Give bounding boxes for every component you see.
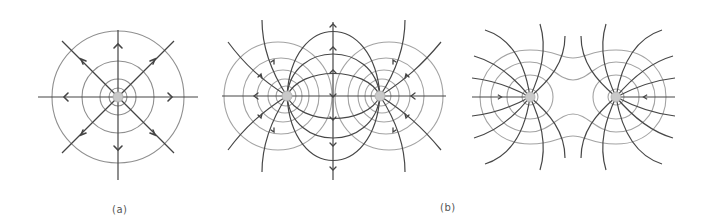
- charge-left: [525, 92, 535, 102]
- charge-right: [611, 92, 621, 102]
- panel-b-dipole: [222, 20, 446, 180]
- panel-label-b: (b): [440, 202, 456, 213]
- panel-label-a: (a): [112, 204, 127, 215]
- field-lines: [38, 30, 198, 180]
- field-diagrams: [0, 0, 709, 220]
- panel-c-like-charges: [472, 24, 675, 170]
- field-lines: [222, 20, 446, 180]
- panel-a-single-charge: [38, 30, 198, 180]
- negative-charge: [375, 91, 385, 101]
- positive-charge: [282, 91, 292, 101]
- field-lines: [472, 24, 675, 170]
- point-charge: [113, 92, 123, 102]
